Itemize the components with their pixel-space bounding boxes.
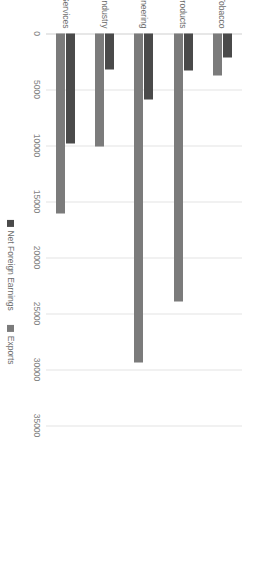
value-axis-tick-label: 10000 [32,133,42,157]
value-axis-tick-label: 15000 [32,189,42,213]
category-axis-label: Metals & Engineering [139,0,149,28]
gridline [46,145,242,146]
bar[interactable] [223,33,232,57]
chart-figure: 05000100001500020000250003000035000Food,… [0,0,270,583]
plot-area: 05000100001500020000250003000035000Food,… [46,33,242,425]
bar[interactable] [174,33,183,301]
bar[interactable] [184,33,193,70]
value-axis-tick-label: 20000 [32,245,42,269]
legend-label: Exports [6,335,16,364]
gridline [46,369,242,370]
gridline [46,201,242,202]
category-axis-label: Chemical Products [178,0,188,28]
bar[interactable] [135,33,144,362]
gridline [46,425,242,426]
chart-legend: Net Foreign EarningsExports [6,219,16,364]
gridline [46,313,242,314]
legend-label: Net Foreign Earnings [6,230,16,310]
legend-swatch-icon [8,324,15,331]
bar[interactable] [66,33,75,143]
value-axis-tick-label: 25000 [32,301,42,325]
category-axis-label: Market Services [61,0,71,28]
bar[interactable] [56,33,65,213]
category-axis-label: Other Industry [100,0,110,28]
bar[interactable] [145,33,154,99]
chart-canvas: 05000100001500020000250003000035000Food,… [0,0,270,583]
legend-item[interactable]: Exports [6,324,16,364]
bar[interactable] [105,33,114,69]
value-axis-tick-label: 30000 [32,357,42,381]
value-axis-tick-label: 5000 [32,80,42,99]
legend-swatch-icon [8,219,15,226]
category-axis-label: Food, Beverages & Tobacco [217,0,227,28]
value-axis-tick-label: 35000 [32,413,42,437]
value-axis-tick-label: 0 [32,31,42,36]
legend-item[interactable]: Net Foreign Earnings [6,219,16,310]
bar[interactable] [213,33,222,75]
bar[interactable] [95,33,104,146]
gridline [46,257,242,258]
